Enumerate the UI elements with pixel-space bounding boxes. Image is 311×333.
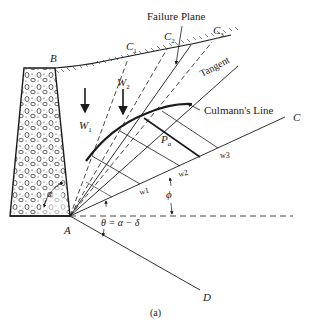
culmann-line-curve: [86, 104, 192, 161]
point-C3-label: C3: [213, 24, 224, 39]
point-B-label: B: [50, 52, 57, 64]
phi-label: ϕ: [166, 188, 172, 200]
retaining-wall: [10, 68, 70, 216]
w1-label: W1: [79, 119, 92, 134]
figure-caption: (a): [150, 307, 161, 319]
tangent-line: [70, 66, 238, 216]
w2-label: W2: [117, 76, 130, 91]
point-C1-label: C1: [126, 40, 137, 55]
phi-line-AC: [70, 117, 285, 216]
point-C-label: C: [293, 111, 301, 123]
phi-arrow-up: [170, 178, 171, 186]
culmann-diagram: Failure Plane Tangent Culmann's Line B A…: [0, 0, 311, 333]
culmann-line-label: Culmann's Line: [204, 104, 274, 116]
point-A-label: A: [63, 224, 71, 236]
phi-arrow-down: [171, 203, 172, 214]
pa-line: [144, 118, 200, 157]
failure-plane-label: Failure Plane: [147, 10, 205, 22]
theta-label: θ = α − δ: [101, 217, 140, 228]
line-A-C2-dashed: [70, 49, 167, 216]
point-D-label: D: [202, 291, 211, 303]
tick-w2-label: w2: [177, 168, 189, 179]
point-C2-label: C2: [164, 30, 175, 45]
tick-w1-label: w1: [138, 186, 150, 197]
tangent-label: Tangent: [198, 54, 232, 79]
tick-w3-label: w3: [220, 151, 230, 160]
alpha-label: α: [47, 188, 53, 199]
